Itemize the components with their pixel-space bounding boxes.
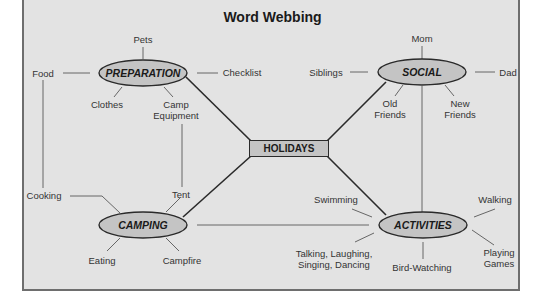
detail-tent: Tent <box>172 189 190 200</box>
detail-camp-equipment: Camp Equipment <box>150 99 202 121</box>
detail-new-friends: New Friends <box>440 98 480 120</box>
detail-eating: Eating <box>89 255 116 266</box>
node-preparation: PREPARATION <box>106 67 181 79</box>
node-activities: ACTIVITIES <box>394 219 452 231</box>
detail-food: Food <box>32 68 54 79</box>
detail-bird-watching: Bird-Watching <box>392 262 451 273</box>
detail-siblings: Siblings <box>309 67 342 78</box>
node-camping: CAMPING <box>118 219 168 231</box>
detail-talking-laughing-singing-dancing: Talking, Laughing, Singing, Dancing <box>284 248 384 270</box>
detail-walking: Walking <box>478 194 511 205</box>
detail-mom: Mom <box>411 33 432 44</box>
detail-pets: Pets <box>133 34 152 45</box>
detail-swimming: Swimming <box>314 194 358 205</box>
detail-campfire: Campfire <box>163 255 202 266</box>
detail-old-friends: Old Friends <box>370 98 410 120</box>
detail-playing-games: Playing Games <box>479 247 519 269</box>
detail-checklist: Checklist <box>223 67 262 78</box>
detail-cooking: Cooking <box>27 190 62 201</box>
node-social: SOCIAL <box>402 66 442 78</box>
center-node-holidays: HOLIDAYS <box>249 140 329 157</box>
detail-clothes: Clothes <box>91 99 123 110</box>
detail-dad: Dad <box>499 67 516 78</box>
diagram-title: Word Webbing <box>0 9 545 25</box>
